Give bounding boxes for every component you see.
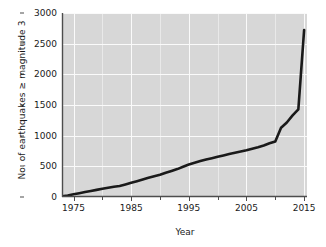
x-tick-mark-minor xyxy=(275,197,276,200)
x-tick-mark-minor xyxy=(102,197,103,200)
x-tick-mark-minor xyxy=(160,197,161,200)
x-tick-label: 2005 xyxy=(235,203,258,213)
x-tick-label: 1995 xyxy=(177,203,200,213)
x-tick-mark xyxy=(189,197,190,201)
earthquake-line-chart: 050010001500200025003000 197519851995200… xyxy=(0,0,326,247)
x-tick-label: 2015 xyxy=(293,203,316,213)
x-tick-mark xyxy=(131,197,132,201)
x-tick-mark xyxy=(74,197,75,201)
x-tick-mark xyxy=(304,197,305,201)
x-axis-title: Year xyxy=(62,227,308,237)
x-tick-label: 1985 xyxy=(120,203,143,213)
x-tick-mark-minor xyxy=(218,197,219,200)
y-axis-title: No. of earthquakes ≥ magnitude 3 xyxy=(17,5,27,195)
x-tick-label: 1975 xyxy=(62,203,85,213)
x-tick-mark xyxy=(246,197,247,201)
x-axis-tick-labels: 19751985199520052015 xyxy=(0,0,326,247)
